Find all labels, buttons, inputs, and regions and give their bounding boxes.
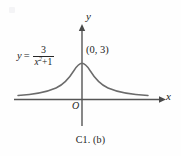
origin-label: O	[72, 101, 79, 111]
equation-equals-sign: =	[24, 51, 30, 62]
y-axis-label: y	[86, 11, 91, 22]
equation-left-side: y	[17, 51, 22, 62]
graph-plot-area	[0, 0, 181, 156]
x-axis-label: x	[166, 91, 171, 102]
figure-container: y x O (0, 3) y = 3 x2+1 C1. (b)	[0, 0, 181, 156]
figure-caption: C1. (b)	[0, 134, 181, 145]
equation-fraction: 3 x2+1	[33, 45, 55, 68]
point-label-0-3: (0, 3)	[86, 45, 109, 56]
y-axis-arrowhead	[79, 24, 85, 31]
x-axis-arrowhead	[159, 96, 166, 102]
equation-annotation: y = 3 x2+1	[17, 45, 54, 68]
fraction-denominator: x2+1	[33, 57, 55, 68]
curve-group	[18, 63, 148, 95]
denominator-tail: +1	[42, 57, 52, 67]
function-curve	[18, 63, 148, 95]
axes-group	[14, 24, 166, 126]
